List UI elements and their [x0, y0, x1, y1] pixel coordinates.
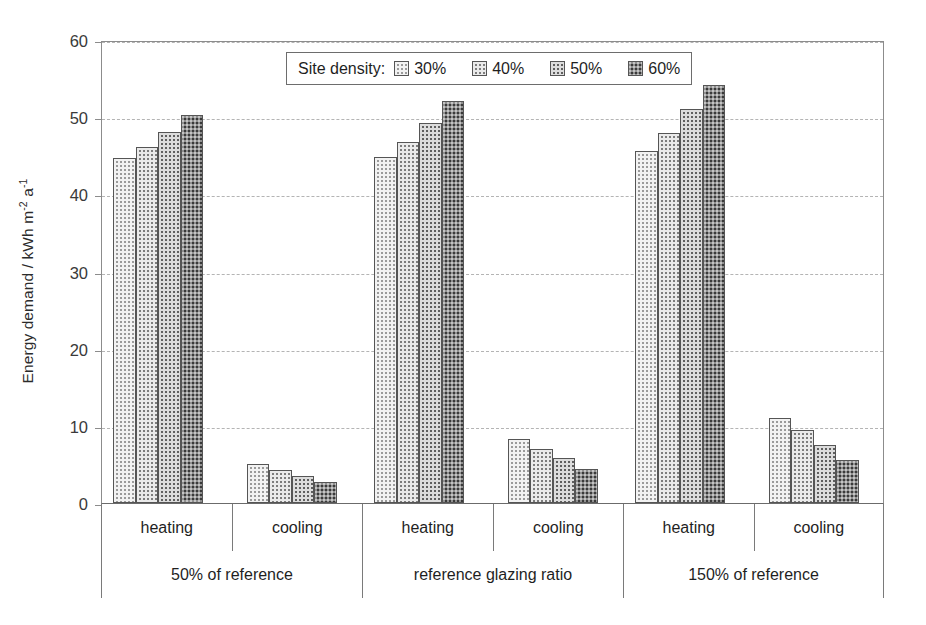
gridline	[102, 196, 883, 197]
bar	[814, 445, 837, 503]
legend-swatch	[550, 61, 565, 76]
category-subgroup-label: heating	[362, 504, 493, 551]
bar	[181, 115, 204, 503]
y-axis-tick-label: 0	[44, 495, 88, 514]
y-axis-title: Energy demand / kWh m-2 a-1	[19, 116, 37, 446]
y-axis-tick-mark	[95, 119, 102, 120]
legend-label: 30%	[414, 60, 446, 78]
bar	[397, 142, 420, 503]
legend: Site density: 30%40%50%60%	[286, 52, 692, 85]
y-axis-title-sup1: -2	[17, 201, 29, 211]
gridline	[102, 351, 883, 352]
bar	[791, 430, 814, 503]
bar	[553, 458, 576, 503]
y-axis-tick-label: 60	[44, 32, 88, 51]
y-axis-tick-mark	[95, 274, 102, 275]
legend-label: 60%	[648, 60, 680, 78]
category-axis: heatingcoolingheatingcoolingheatingcooli…	[101, 504, 884, 598]
bar	[635, 151, 658, 503]
category-subgroup-label: cooling	[754, 504, 885, 551]
legend-label: 50%	[570, 60, 602, 78]
legend-entries: 30%40%50%60%	[394, 60, 680, 78]
legend-entry: 60%	[628, 60, 680, 78]
y-axis-title-sup2: -1	[17, 179, 29, 189]
y-axis-tick-mark	[95, 196, 102, 197]
category-subgroup-label: cooling	[232, 504, 363, 551]
bar	[769, 418, 792, 503]
category-group-label: 150% of reference	[623, 551, 884, 598]
category-group-label: reference glazing ratio	[362, 551, 623, 598]
bar	[530, 449, 553, 503]
bar	[658, 133, 681, 503]
gridline	[102, 274, 883, 275]
bar	[374, 157, 397, 503]
bar	[703, 85, 726, 503]
y-axis-tick-labels: 0102030405060	[44, 0, 88, 625]
y-axis-title-base: Energy demand / kWh m	[19, 211, 36, 384]
legend-title: Site density:	[298, 60, 385, 78]
legend-entry: 50%	[550, 60, 602, 78]
y-axis-tick-mark	[95, 42, 102, 43]
bar	[292, 476, 315, 503]
legend-entry: 30%	[394, 60, 446, 78]
y-axis-title-mid: a	[19, 188, 36, 201]
y-axis-tick-mark	[95, 428, 102, 429]
gridline	[102, 42, 883, 43]
bar	[136, 147, 159, 503]
bar	[269, 470, 292, 503]
bar	[575, 469, 598, 503]
bar	[314, 482, 337, 503]
bar	[508, 439, 531, 503]
y-axis-tick-label: 10	[44, 417, 88, 436]
category-subgroup-label: heating	[623, 504, 754, 551]
legend-swatch	[394, 61, 409, 76]
gridline	[102, 119, 883, 120]
category-subgroup-label: heating	[101, 504, 232, 551]
bar	[836, 460, 859, 503]
bar-chart-figure: Energy demand / kWh m-2 a-1 010203040506…	[0, 0, 926, 625]
category-axis-group-row: 50% of referencereference glazing ratio1…	[101, 551, 884, 598]
y-axis-tick-label: 30	[44, 263, 88, 282]
legend-swatch	[472, 61, 487, 76]
bar	[419, 123, 442, 503]
bar	[158, 132, 181, 503]
category-axis-subgroup-row: heatingcoolingheatingcoolingheatingcooli…	[101, 504, 884, 551]
bar	[680, 109, 703, 503]
y-axis-tick-mark	[95, 351, 102, 352]
legend-label: 40%	[492, 60, 524, 78]
category-group-label: 50% of reference	[101, 551, 362, 598]
gridline	[102, 428, 883, 429]
bar	[247, 464, 270, 503]
legend-entry: 40%	[472, 60, 524, 78]
legend-swatch	[628, 61, 643, 76]
bar	[442, 101, 465, 503]
y-axis-tick-label: 50	[44, 109, 88, 128]
y-axis-tick-label: 40	[44, 186, 88, 205]
plot-area	[101, 41, 884, 504]
category-subgroup-label: cooling	[493, 504, 624, 551]
y-axis-tick-label: 20	[44, 340, 88, 359]
bar	[113, 158, 136, 503]
